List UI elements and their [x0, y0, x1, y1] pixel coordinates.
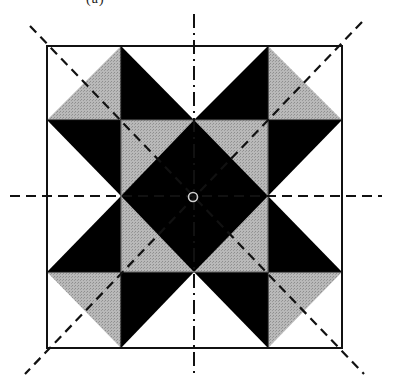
pattern-svg	[0, 0, 395, 386]
symmetry-figure: (a)	[0, 0, 395, 386]
symmetry-axes	[10, 14, 382, 378]
caption-fragment: (a)	[86, 0, 105, 7]
